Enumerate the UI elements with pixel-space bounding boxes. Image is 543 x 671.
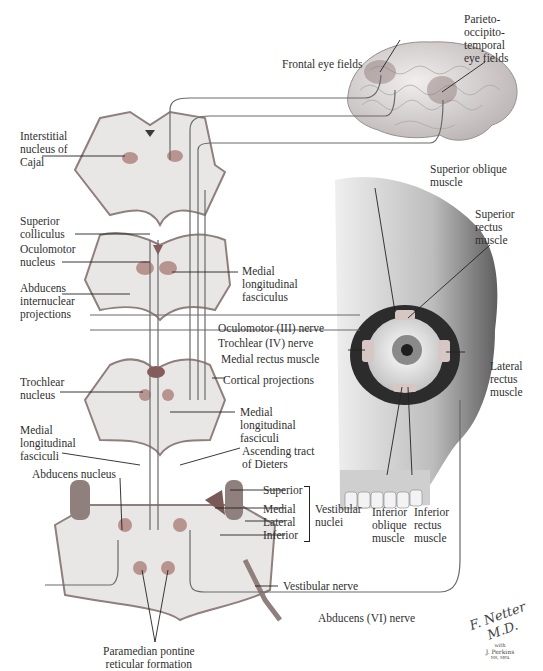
label-interstitial-nucleus-of-cajal: Interstitial nucleus of Cajal bbox=[20, 130, 68, 169]
label-lateral-rectus-muscle: Lateral rectus muscle bbox=[490, 360, 523, 399]
label-vestibular-lateral: Lateral bbox=[263, 516, 296, 529]
skull bbox=[335, 177, 497, 510]
label-vestibular-nuclei: Vestibular nuclei bbox=[315, 503, 362, 529]
label-medial-longitudinal-fasciculi-right: Medial longitudinal fasciculi bbox=[240, 406, 296, 445]
label-inferior-rectus-muscle: Inferior rectus muscle bbox=[414, 506, 449, 545]
label-oculomotor-nucleus: Oculomotor nucleus bbox=[20, 243, 76, 269]
label-trochlear-nucleus: Trochlear nucleus bbox=[20, 376, 64, 402]
label-vestibular-inferior: Inferior bbox=[263, 529, 298, 542]
label-paramedian-pontine-reticular-formation: Paramedian pontine reticular formation bbox=[103, 645, 195, 671]
label-abducens-nucleus: Abducens nucleus bbox=[32, 468, 116, 481]
label-medial-rectus-muscle: Medial rectus muscle bbox=[221, 353, 319, 366]
label-inferior-oblique-muscle: Inferior oblique muscle bbox=[372, 506, 407, 545]
label-vestibular-medial: Medial bbox=[263, 503, 296, 516]
label-cortical-projections: Cortical projections bbox=[223, 374, 314, 387]
vestibular-bracket bbox=[304, 486, 310, 542]
label-superior-colliculus: Superior colliculus bbox=[20, 215, 65, 241]
anatomy-illustration bbox=[0, 0, 543, 671]
signature-credentials: MS, MFA bbox=[470, 655, 530, 660]
label-abducens-nerve: Abducens (VI) nerve bbox=[318, 612, 415, 625]
pons-lower-section bbox=[55, 480, 280, 620]
artist-signature: F. Netter M.D. with J. Perkins MS, MFA bbox=[470, 608, 530, 660]
label-trochlear-nerve: Trochlear (IV) nerve bbox=[218, 337, 313, 350]
label-abducens-internuclear-projections: Abducens internuclear projections bbox=[20, 282, 75, 321]
label-superior-oblique-muscle: Superior oblique muscle bbox=[430, 163, 507, 189]
label-vestibular-nerve: Vestibular nerve bbox=[283, 580, 358, 593]
label-medial-longitudinal-fasciculus: Medial longitudinal fasciculus bbox=[242, 265, 298, 304]
pons-upper-section bbox=[85, 360, 225, 455]
label-parieto-occipito-temporal-eye-fields: Parieto- occipito- temporal eye fields bbox=[464, 13, 508, 65]
label-vestibular-superior: Superior bbox=[263, 484, 303, 497]
label-oculomotor-nerve: Oculomotor (III) nerve bbox=[218, 322, 324, 335]
signature-coartist: J. Perkins bbox=[470, 648, 530, 655]
label-frontal-eye-fields: Frontal eye fields bbox=[282, 58, 362, 71]
label-medial-longitudinal-fasciculi-left: Medial longitudinal fasciculi bbox=[20, 424, 76, 463]
label-superior-rectus-muscle: Superior rectus muscle bbox=[475, 208, 515, 247]
midbrain-upper-section bbox=[75, 112, 225, 225]
label-ascending-tract-of-dieters: Ascending tract of Dieters bbox=[242, 445, 315, 471]
